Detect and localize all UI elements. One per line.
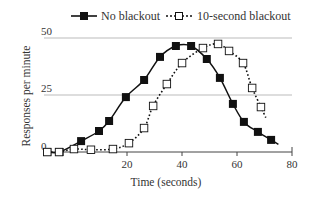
data-point-no-blackout (216, 74, 224, 82)
legend-filled-square-icon (80, 12, 88, 20)
legend-open-square-icon (176, 13, 183, 20)
data-point-10-second-blackout (55, 148, 63, 156)
data-point-no-blackout (122, 93, 130, 101)
data-point-10-second-blackout (239, 59, 247, 67)
data-point-no-blackout (229, 100, 237, 108)
data-point-no-blackout (140, 76, 148, 84)
x-tick-label-20: 20 (122, 158, 134, 170)
data-point-10-second-blackout (248, 84, 256, 92)
legend-label-no-blackout: No blackout (101, 9, 161, 23)
data-point-10-second-blackout (44, 148, 52, 156)
x-axis-title: Time (seconds) (131, 176, 202, 189)
data-point-10-second-blackout (149, 102, 157, 110)
data-point-no-blackout (172, 42, 180, 50)
series-layer (43, 40, 278, 156)
data-point-no-blackout (267, 136, 275, 144)
y-tick-label-50: 50 (41, 25, 53, 37)
y-tick-label-25: 25 (41, 82, 53, 94)
data-point-no-blackout (77, 137, 85, 145)
data-point-no-blackout (240, 118, 248, 126)
data-point-10-second-blackout (109, 145, 117, 153)
data-point-no-blackout (254, 128, 262, 136)
data-point-10-second-blackout (178, 59, 186, 67)
data-point-10-second-blackout (225, 47, 233, 55)
x-tick-label-60: 60 (232, 158, 244, 170)
x-tick-label-40: 40 (177, 158, 189, 170)
data-point-10-second-blackout (70, 145, 78, 153)
legend: No blackout 10-second blackout (71, 9, 291, 23)
data-point-10-second-blackout (199, 44, 207, 52)
data-point-no-blackout (156, 53, 164, 61)
line-chart: 50 25 0 20 40 60 80 Time (seconds) Respo… (0, 0, 315, 200)
data-point-no-blackout (95, 127, 103, 135)
data-point-no-blackout (203, 55, 211, 63)
data-point-10-second-blackout (163, 80, 171, 88)
legend-label-blackout: 10-second blackout (197, 9, 291, 23)
data-point-10-second-blackout (140, 124, 148, 132)
x-tick-label-80: 80 (287, 158, 299, 170)
data-point-10-second-blackout (125, 139, 133, 147)
data-point-10-second-blackout (214, 40, 222, 48)
data-point-no-blackout (105, 117, 113, 125)
y-axis-title: Responses per minute (20, 46, 33, 147)
data-point-10-second-blackout (257, 103, 265, 111)
data-point-10-second-blackout (87, 146, 95, 154)
data-point-no-blackout (187, 42, 195, 50)
